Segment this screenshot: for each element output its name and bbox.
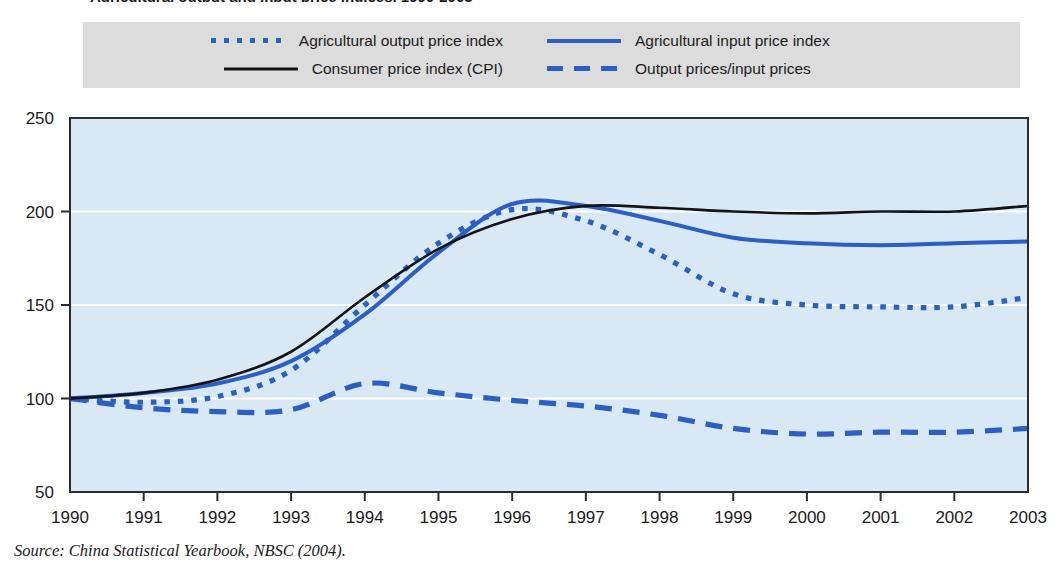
x-axis-tick-label: 1990 [51, 508, 89, 527]
source-prefix: Source: [14, 541, 65, 560]
x-axis-tick-label: 1993 [272, 508, 310, 527]
x-axis-tick-label: 1991 [125, 508, 163, 527]
x-axis-tick-label: 2000 [788, 508, 826, 527]
y-axis-tick-label: 250 [26, 109, 54, 128]
y-axis-tick-label: 50 [35, 483, 54, 502]
x-axis-tick-label: 1999 [714, 508, 752, 527]
y-axis-tick-label: 100 [26, 390, 54, 409]
y-axis-tick-label: 150 [26, 296, 54, 315]
x-axis-tick-label: 1997 [567, 508, 605, 527]
y-axis-tick-label: 200 [26, 203, 54, 222]
source-note: Source: China Statistical Yearbook, NBSC… [14, 541, 346, 561]
figure-container: Agricultural output and input price indi… [0, 0, 1064, 581]
x-axis-tick-label: 2001 [862, 508, 900, 527]
line-chart: 5010015020025019901991199219931994199519… [0, 0, 1064, 535]
x-axis-tick-label: 2003 [1009, 508, 1047, 527]
x-axis-tick-label: 1995 [420, 508, 458, 527]
x-axis-tick-label: 1992 [198, 508, 236, 527]
x-axis-tick-label: 1998 [641, 508, 679, 527]
x-axis-tick-label: 1994 [346, 508, 384, 527]
x-axis-tick-label: 2002 [935, 508, 973, 527]
x-axis-tick-label: 1996 [493, 508, 531, 527]
source-text: China Statistical Yearbook, NBSC (2004). [69, 541, 346, 560]
